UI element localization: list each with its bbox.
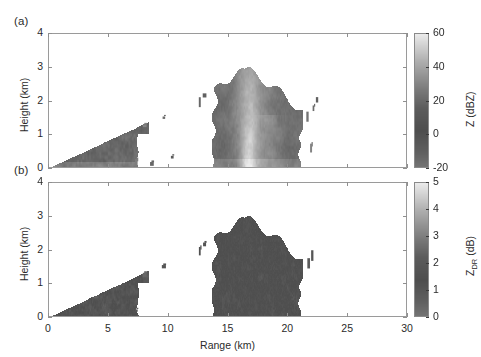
xtick-25: 25 (335, 322, 359, 334)
ytickmark (48, 168, 52, 169)
ytickmark (403, 283, 407, 284)
colorbar-tickmark (426, 33, 429, 34)
ytickmark (48, 67, 52, 68)
xtick-5: 5 (96, 322, 120, 334)
ytick-a-3: 3 (28, 60, 43, 72)
ytickmark (403, 317, 407, 318)
ytick-a-2: 2 (28, 94, 43, 106)
xtickmark (108, 182, 109, 186)
ytickmark (48, 216, 52, 217)
colorbar-tickmark (426, 182, 429, 183)
ytickmark (48, 101, 52, 102)
panel-a-heatmap (49, 34, 407, 168)
colorbar-tick-2: 2 (433, 256, 439, 268)
xtickmark (228, 313, 229, 317)
xtickmark (347, 33, 348, 37)
panel-a-axes (48, 33, 407, 168)
colorbar-zdr-label: ZDR (dB) (464, 235, 479, 275)
colorbar-tickmark (426, 67, 429, 68)
colorbar-tick--20: -20 (433, 161, 448, 173)
ytick-b-2: 2 (28, 243, 43, 255)
xtickmark (228, 182, 229, 186)
colorbar-tickmark (426, 263, 429, 264)
colorbar-tick-0: 0 (433, 310, 439, 322)
ytick-b-1: 1 (28, 276, 43, 288)
xtickmark (407, 33, 408, 37)
xtickmark (108, 164, 109, 168)
panel-b-axes (48, 182, 407, 317)
xtickmark (287, 33, 288, 37)
colorbar-tickmark (426, 209, 429, 210)
xtickmark (168, 182, 169, 186)
colorbar-tickmark (426, 236, 429, 237)
panel-b-heatmap (49, 183, 407, 317)
ytickmark (48, 283, 52, 284)
ytickmark (48, 250, 52, 251)
colorbar-tick-4: 4 (433, 202, 439, 214)
radar-rhi-figure: (a) Height (km) (b) Height (km) Range (k… (0, 0, 481, 357)
ytickmark (403, 168, 407, 169)
ytickmark (403, 101, 407, 102)
ytick-b-4: 4 (28, 175, 43, 187)
ytick-b-3: 3 (28, 209, 43, 221)
ytick-a-4: 4 (28, 26, 43, 38)
xtickmark (48, 164, 49, 168)
ytick-a-0: 0 (28, 161, 43, 173)
xtickmark (168, 313, 169, 317)
ytickmark (403, 67, 407, 68)
panel-b-xlabel: Range (km) (188, 339, 268, 351)
ytickmark (403, 250, 407, 251)
xtickmark (407, 164, 408, 168)
colorbar-tick-0: 0 (433, 127, 439, 139)
xtickmark (287, 182, 288, 186)
xtickmark (347, 313, 348, 317)
xtickmark (168, 164, 169, 168)
xtickmark (347, 182, 348, 186)
ytick-a-1: 1 (28, 127, 43, 139)
xtick-20: 20 (275, 322, 299, 334)
colorbar-tickmark (426, 101, 429, 102)
xtickmark (228, 164, 229, 168)
xtick-15: 15 (216, 322, 240, 334)
xtickmark (108, 313, 109, 317)
xtick-10: 10 (156, 322, 180, 334)
colorbar-tickmark (426, 290, 429, 291)
xtickmark (407, 313, 408, 317)
xtickmark (108, 33, 109, 37)
colorbar-tick-40: 40 (433, 60, 445, 72)
xtickmark (287, 313, 288, 317)
colorbar-tickmark (426, 317, 429, 318)
colorbar-tick-20: 20 (433, 94, 445, 106)
xtickmark (347, 164, 348, 168)
panel-a-letter: (a) (14, 15, 28, 27)
xtickmark (287, 164, 288, 168)
colorbar-tickmark (426, 168, 429, 169)
xtickmark (228, 33, 229, 37)
ytickmark (403, 216, 407, 217)
colorbar-z-label: Z (dBZ) (464, 91, 476, 127)
xtick-30: 30 (395, 322, 419, 334)
xtickmark (48, 313, 49, 317)
xtick-0: 0 (36, 322, 60, 334)
colorbar-zdr (414, 182, 429, 317)
xtickmark (48, 182, 49, 186)
panel-b-letter: (b) (14, 164, 28, 176)
colorbar-zdr-gradient (415, 183, 429, 317)
ytickmark (48, 317, 52, 318)
colorbar-tick-5: 5 (433, 175, 439, 187)
xtickmark (407, 182, 408, 186)
xtickmark (168, 33, 169, 37)
colorbar-tickmark (426, 134, 429, 135)
ytickmark (403, 134, 407, 135)
ytickmark (48, 134, 52, 135)
colorbar-tick-3: 3 (433, 229, 439, 241)
ytick-b-0: 0 (28, 310, 43, 322)
colorbar-tick-60: 60 (433, 26, 445, 38)
xtickmark (48, 33, 49, 37)
colorbar-tick-1: 1 (433, 283, 439, 295)
